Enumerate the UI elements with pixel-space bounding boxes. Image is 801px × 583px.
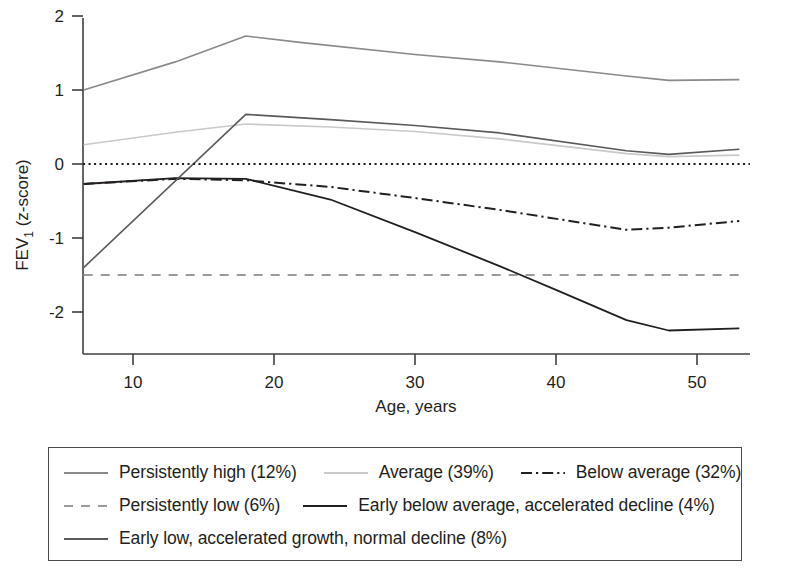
legend-swatch-below-average [520,466,566,480]
legend-row: Persistently low (6%)Early below average… [49,489,741,522]
legend-row: Early low, accelerated growth, normal de… [49,522,741,555]
chart-legend: Persistently high (12%)Average (39%)Belo… [48,447,742,561]
legend-label-persistently-high: Persistently high (12%) [119,462,297,483]
legend-label-below-average: Below average (32%) [576,462,741,483]
x-axis-title: Age, years [375,397,456,416]
legend-item-below-average[interactable]: Below average (32%) [520,456,741,489]
legend-label-persistently-low: Persistently low (6%) [119,495,280,516]
x-tick-label: 10 [124,373,143,392]
series-line-early-low-accelerated-growth-normal-decline [84,114,740,267]
series-line-persistently-high [84,36,740,90]
y-tick-label: -2 [49,303,64,322]
legend-row: Persistently high (12%)Average (39%)Belo… [49,456,741,489]
y-tick-label: 2 [55,7,64,26]
x-tick-label: 30 [406,373,425,392]
series-line-below-average [84,179,740,230]
y-tick-label: 0 [55,155,64,174]
y-tick-label: 1 [55,81,64,100]
legend-swatch-early-below-average-accelerated-decline [302,499,348,513]
legend-item-early-low-accelerated-growth-normal-decline[interactable]: Early low, accelerated growth, normal de… [63,522,507,555]
legend-swatch-persistently-high [63,466,109,480]
fev1-line-chart: 210-1-2 1020304050 FEV1 (z-score) Age, y… [0,0,801,440]
figure-fev1-trajectories: 210-1-2 1020304050 FEV1 (z-score) Age, y… [0,0,801,583]
legend-item-persistently-high[interactable]: Persistently high (12%) [63,456,297,489]
x-tick-label: 20 [265,373,284,392]
legend-swatch-early-low-accelerated-growth-normal-decline [63,532,109,546]
y-axis-title: FEV1 (z-score) [13,159,36,271]
x-tick-label: 50 [688,373,707,392]
legend-item-early-below-average-accelerated-decline[interactable]: Early below average, accelerated decline… [302,489,714,522]
y-tick-label: -1 [49,229,64,248]
y-axis-ticks: 210-1-2 [49,7,83,322]
chart-plot-area: 210-1-2 1020304050 FEV1 (z-score) Age, y… [0,0,801,440]
x-tick-label: 40 [547,373,566,392]
legend-swatch-average [323,466,369,480]
legend-label-average: Average (39%) [379,462,494,483]
legend-item-persistently-low[interactable]: Persistently low (6%) [63,489,280,522]
legend-label-early-below-average-accelerated-decline: Early below average, accelerated decline… [358,495,714,516]
legend-item-average[interactable]: Average (39%) [323,456,494,489]
legend-rows: Persistently high (12%)Average (39%)Belo… [49,448,741,560]
legend-label-early-low-accelerated-growth-normal-decline: Early low, accelerated growth, normal de… [119,528,507,549]
series-line-early-below-average-accelerated-decline [84,178,740,330]
legend-swatch-persistently-low [63,499,109,513]
series-layer [84,36,740,331]
x-axis-ticks: 1020304050 [124,354,707,392]
